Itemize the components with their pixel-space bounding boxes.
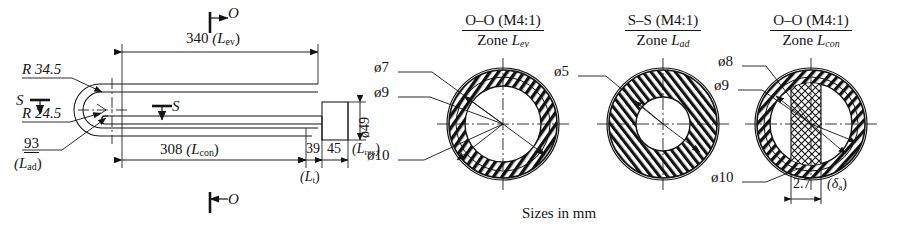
section-mark-s-mid xyxy=(152,106,172,120)
dim-label-45: 45 xyxy=(327,142,341,156)
dim-308-value: 308 xyxy=(160,141,183,157)
section-3-zone-sub: con xyxy=(825,38,839,49)
section-2-zone-sub: ad xyxy=(680,38,690,49)
section-2-zone-prefix: Zone xyxy=(637,32,672,48)
dim-340-sub: ev xyxy=(226,36,235,47)
dim-308-sub: con xyxy=(200,147,214,158)
dim-label-340: 340 (Lev) xyxy=(186,31,240,47)
callout-dia7: ø7 xyxy=(374,60,389,75)
dim-label-dia49: ø49 xyxy=(358,117,372,138)
section-mark-label-s-mid: S xyxy=(172,99,180,114)
dim-lres-open: (L xyxy=(352,141,364,156)
dim-label-308: 308 (Lcon) xyxy=(160,142,219,158)
adiabatic-len-open: (L xyxy=(14,155,27,171)
section-2-title-bottom: Zone Lad xyxy=(637,31,690,49)
dim-340-close: ) xyxy=(235,30,240,46)
wick-delta-open: (δ xyxy=(827,176,838,191)
section-1-zone-sub: ev xyxy=(520,38,529,49)
section-3-title-top: O–O (M4:1) xyxy=(770,12,851,31)
callout-dia10: ø10 xyxy=(367,148,390,163)
callout-dia8: ø8 xyxy=(718,54,733,69)
callout-dia10b: ø10 xyxy=(711,170,734,185)
section-1-zone-sym: L xyxy=(512,32,520,48)
section-3-zone-prefix: Zone xyxy=(782,32,817,48)
adiabatic-len-close: ) xyxy=(37,155,42,171)
callout-dia9b: ø9 xyxy=(714,78,729,93)
section-mark-label-o-top: O xyxy=(228,6,239,21)
section-1-title-top: O–O (M4:1) xyxy=(462,12,543,31)
cross-section-2-geometry xyxy=(578,58,729,190)
callout-dia5: ø5 xyxy=(554,64,569,79)
dim-symbol-lt: (Lt) xyxy=(300,170,320,185)
section-3-title: O–O (M4:1) Zone Lcon xyxy=(751,12,871,49)
cross-section-1-geometry xyxy=(398,58,569,190)
section-2-zone-sym: L xyxy=(671,32,679,48)
dim-340-open: (L xyxy=(212,30,225,46)
section-2-title-top: S–S (M4:1) xyxy=(625,12,701,31)
radius-inner-label: R 24.5 xyxy=(22,106,61,121)
dim-label-39: 39 xyxy=(306,142,320,156)
wick-thickness-value: 2.7 xyxy=(793,177,811,191)
adiabatic-len-sub: ad xyxy=(27,161,36,172)
adiabatic-length-symbol: (Lad) xyxy=(14,156,42,172)
units-caption: Sizes in mm xyxy=(522,206,596,221)
section-1-title: O–O (M4:1) Zone Lev xyxy=(443,12,563,49)
radius-outer-label: R 34.5 xyxy=(22,62,61,77)
drawing-sheet: O O S S R 34.5 R 24.5 93 (Lad) 340 (Lev)… xyxy=(0,0,897,237)
section-mark-o-bottom xyxy=(210,192,228,213)
wick-delta-close: ) xyxy=(842,176,847,191)
dim-lt-close: ) xyxy=(315,169,320,184)
callout-dia9: ø9 xyxy=(374,85,389,100)
section-2-title: S–S (M4:1) Zone Lad xyxy=(603,12,723,49)
section-mark-label-o-bottom: O xyxy=(228,192,239,207)
dim-lt-open: (L xyxy=(300,169,312,184)
adiabatic-length-value: 93 xyxy=(24,136,39,153)
wick-thickness-symbol: (δa) xyxy=(827,177,847,192)
section-3-title-bottom: Zone Lcon xyxy=(782,31,839,49)
section-1-title-bottom: Zone Lev xyxy=(477,31,529,49)
dim-308-open: (L xyxy=(186,141,199,157)
section-1-zone-prefix: Zone xyxy=(477,32,512,48)
reservoir-block xyxy=(322,102,348,140)
dim-308-close: ) xyxy=(214,141,219,157)
dim-340-value: 340 xyxy=(186,30,209,46)
